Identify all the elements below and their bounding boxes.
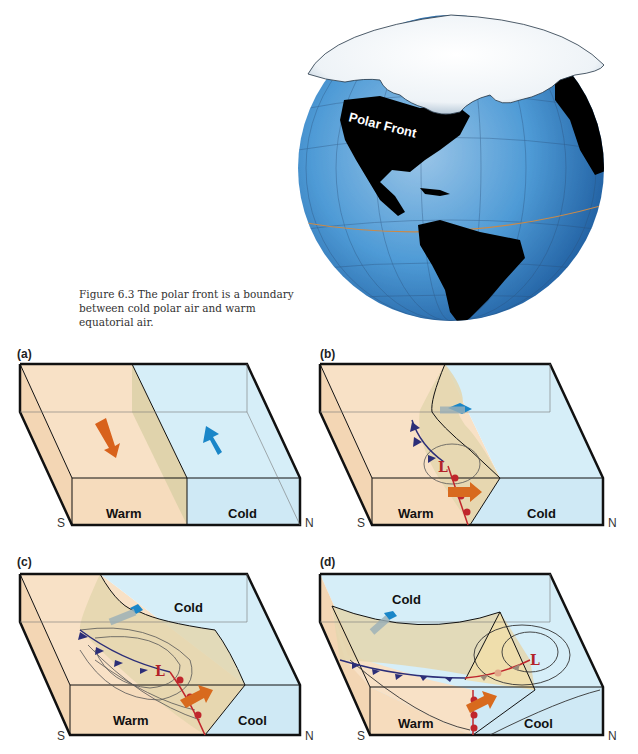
- north-label: N: [608, 729, 617, 743]
- panel-d: L Warm Cool Cold S N: [320, 574, 617, 743]
- cold-label: Cold: [228, 506, 257, 521]
- warm-label: Warm: [106, 506, 142, 521]
- low-pressure-symbol: L: [155, 663, 165, 679]
- warm-label: Warm: [398, 716, 434, 731]
- south-label: S: [57, 516, 65, 530]
- panel-c: L Warm Cool Cold S N: [20, 574, 314, 743]
- cold-label: Cold: [174, 600, 203, 615]
- north-label: N: [305, 516, 314, 530]
- panel-a: Warm Cold S N: [20, 364, 314, 530]
- cold-label: Cold: [392, 592, 421, 607]
- cold-label: Cold: [527, 506, 556, 521]
- warm-label: Warm: [398, 506, 434, 521]
- cool-label: Cool: [238, 713, 267, 728]
- cool-label: Cool: [524, 716, 553, 731]
- north-label: N: [608, 516, 617, 530]
- low-pressure-symbol: L: [438, 459, 448, 475]
- front-diagrams: Warm Cold S N L: [0, 0, 638, 754]
- warm-label: Warm: [113, 713, 149, 728]
- south-label: S: [57, 729, 65, 743]
- panel-b: L Warm Cold S N: [320, 364, 617, 530]
- low-pressure-symbol: L: [530, 652, 540, 668]
- south-label: S: [357, 516, 365, 530]
- north-label: N: [305, 729, 314, 743]
- south-label: S: [357, 729, 365, 743]
